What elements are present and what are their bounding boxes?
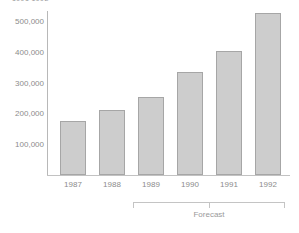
bracket-tick-right — [284, 202, 285, 208]
y-tick-label: 300,000 — [0, 79, 44, 88]
bar-1992 — [255, 13, 281, 175]
x-tick-label-1987: 1987 — [53, 180, 93, 189]
x-axis-line — [47, 175, 290, 176]
x-axis-tick-labels: 1987 1988 1989 1990 1991 1992 — [47, 180, 290, 194]
bars-layer — [47, 0, 290, 175]
y-tick-label: 100,000 — [0, 140, 44, 149]
bar-chart: 1991 1992 500,000 400,000 300,000 200,00… — [0, 0, 299, 233]
bracket-tick-left — [133, 202, 134, 208]
bracket-tick-mid — [209, 202, 210, 208]
y-axis-tick-labels: 500,000 400,000 300,000 200,000 100,000 — [0, 0, 44, 233]
y-tick-label: 200,000 — [0, 109, 44, 118]
x-tick-label-1992: 1992 — [248, 180, 288, 189]
x-tick-label-1988: 1988 — [92, 180, 132, 189]
bar-1991 — [216, 51, 242, 175]
x-tick-label-1990: 1990 — [170, 180, 210, 189]
x-tick-label-1989: 1989 — [131, 180, 171, 189]
bar-1988 — [99, 110, 125, 175]
forecast-label: Forecast — [133, 210, 285, 219]
x-tick-label-1991: 1991 — [209, 180, 249, 189]
bar-1990 — [177, 72, 203, 175]
bar-1989 — [138, 97, 164, 175]
forecast-bracket — [133, 202, 285, 210]
bar-1987 — [60, 121, 86, 175]
y-tick-label: 500,000 — [0, 17, 44, 26]
y-tick-label: 400,000 — [0, 48, 44, 57]
